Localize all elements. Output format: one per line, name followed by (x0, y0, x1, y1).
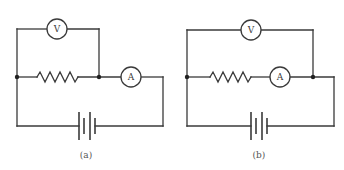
circuit-diagrams: V A (a) (0, 0, 344, 170)
battery-b (251, 112, 267, 140)
voltmeter-label-b: V (247, 25, 255, 35)
voltmeter-b: V (241, 20, 261, 40)
voltmeter-label-a: V (53, 24, 61, 34)
junction-left-b (185, 75, 189, 79)
voltmeter-a: V (47, 19, 67, 39)
junction-left-a (15, 75, 19, 79)
ammeter-label-b: A (276, 72, 284, 82)
battery-a (79, 112, 95, 140)
circuit-a: V A (a) (15, 19, 163, 160)
ammeter-label-a: A (127, 72, 135, 82)
resistor-b (210, 72, 251, 82)
ammeter-b: A (270, 67, 290, 87)
caption-b: (b) (253, 150, 266, 160)
resistor-a (37, 72, 78, 82)
ammeter-a: A (121, 67, 141, 87)
junction-right-a (97, 75, 101, 79)
circuit-b: V A (b) (185, 20, 334, 160)
caption-a: (a) (80, 150, 92, 160)
junction-right-b (311, 75, 315, 79)
